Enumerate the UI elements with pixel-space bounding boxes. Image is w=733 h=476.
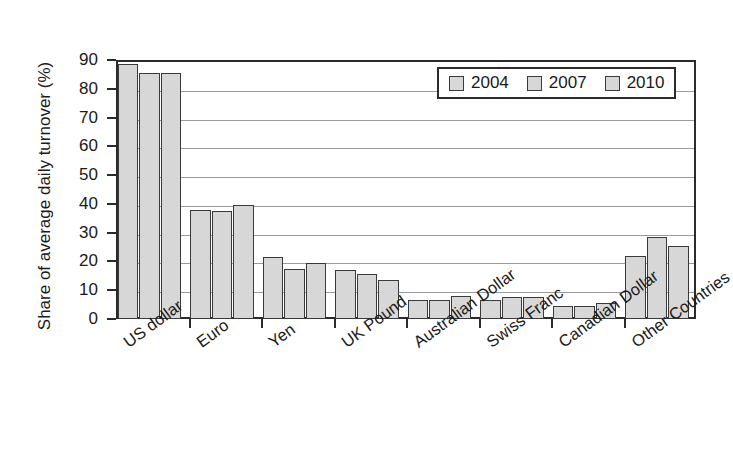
x-tick-mark — [189, 319, 191, 328]
y-tick-mark — [107, 232, 116, 234]
y-tick-mark — [107, 289, 116, 291]
x-category-label: Yen — [265, 320, 299, 352]
y-tick-label: 20 — [58, 251, 98, 271]
y-tick-mark — [107, 260, 116, 262]
gridline — [118, 177, 694, 178]
legend-swatch — [449, 76, 464, 91]
legend: 200420072010 — [437, 67, 676, 99]
x-tick-mark — [334, 319, 336, 328]
y-tick-mark — [107, 174, 116, 176]
y-tick-mark — [107, 318, 116, 320]
legend-swatch — [605, 76, 620, 91]
y-tick-mark — [107, 59, 116, 61]
gridline — [118, 263, 694, 264]
x-tick-mark — [551, 319, 553, 328]
legend-item: 2004 — [449, 73, 509, 93]
y-tick-mark — [107, 117, 116, 119]
y-tick-label: 10 — [58, 280, 98, 300]
y-tick-label: 70 — [58, 108, 98, 128]
y-tick-label: 90 — [58, 50, 98, 70]
legend-label: 2010 — [627, 73, 665, 93]
legend-swatch — [527, 76, 542, 91]
gridline — [118, 148, 694, 149]
gridline — [118, 120, 694, 121]
bar-chart: Share of average daily turnover (%) 0102… — [0, 0, 733, 476]
x-tick-mark — [479, 319, 481, 328]
y-tick-label: 30 — [58, 223, 98, 243]
gridline — [118, 206, 694, 207]
y-axis: 0102030405060708090 — [60, 60, 116, 319]
gridline — [118, 235, 694, 236]
x-tick-mark — [406, 319, 408, 328]
y-axis-title: Share of average daily turnover (%) — [35, 46, 55, 346]
x-tick-mark — [261, 319, 263, 328]
y-tick-mark — [107, 88, 116, 90]
y-tick-mark — [107, 145, 116, 147]
x-category-label: Euro — [193, 316, 232, 352]
y-tick-label: 40 — [58, 194, 98, 214]
y-tick-label: 80 — [58, 79, 98, 99]
x-tick-mark — [624, 319, 626, 328]
legend-item: 2007 — [527, 73, 587, 93]
gridline — [118, 292, 694, 293]
y-tick-mark — [107, 203, 116, 205]
y-tick-label: 0 — [58, 309, 98, 329]
y-tick-label: 50 — [58, 165, 98, 185]
legend-item: 2010 — [605, 73, 665, 93]
legend-label: 2007 — [549, 73, 587, 93]
y-tick-label: 60 — [58, 136, 98, 156]
legend-label: 2004 — [471, 73, 509, 93]
